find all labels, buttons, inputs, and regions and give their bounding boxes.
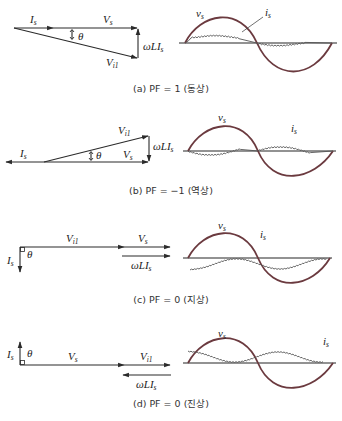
waveform-d: vs is (183, 327, 336, 388)
vs-wave-label: vs (218, 219, 226, 233)
vi1-label: Vi1 (66, 232, 79, 246)
vi1-phasor-arrow (14, 28, 137, 58)
wlis-label: ωLIs (131, 259, 152, 273)
right-angle-mark (21, 361, 25, 365)
caption-a: (a) PF = 1 (동상) (133, 83, 209, 94)
theta-label: θ (27, 248, 33, 260)
is-wave-label: is (323, 335, 329, 349)
caption-c: (c) PF = 0 (지상) (133, 294, 208, 305)
waveform-b: vs is (183, 111, 336, 176)
vs-wave-label: vs (218, 327, 226, 341)
panel-a: Is Vs θ ωLIs Vi1 vs is (a) PF = 1 (동상) (14, 6, 337, 94)
wlis-label: ωLIs (153, 140, 174, 154)
caption-d: (d) PF = 0 (진상) (133, 398, 209, 409)
phasor-diagram-a: Is Vs θ ωLIs Vi1 (14, 13, 164, 70)
phasor-diagram-c: Vi1 Vs ωLIs Is θ (6, 232, 170, 273)
is-waveform (185, 35, 332, 46)
panel-c: Vi1 Vs ωLIs Is θ vs is (c) PF = 0 (지상) (6, 219, 332, 305)
wlis-label: ωLIs (143, 40, 164, 54)
phasor-diagram-d: Is θ Vs Vi1 ωLIs (6, 342, 171, 392)
is-label: Is (19, 147, 27, 161)
waveform-c: vs is (183, 219, 332, 283)
is-label: Is (29, 13, 37, 27)
is-wave-label: is (291, 122, 297, 136)
vi1-label: Vi1 (140, 350, 153, 364)
vi1-label: Vi1 (106, 56, 119, 70)
vi1-label: Vi1 (118, 124, 131, 138)
vs-wave-label: vs (218, 111, 226, 125)
phasor-diagram-b: Is Vs θ ωLIs Vi1 (6, 124, 174, 162)
caption-b: (b) PF = −1 (역상) (129, 185, 213, 196)
vs-label: Vs (68, 350, 78, 364)
is-label: Is (6, 348, 14, 362)
vs-wave-label: vs (196, 7, 204, 21)
vs-label: Vs (123, 148, 133, 162)
vs-label: Vs (103, 13, 113, 27)
vs-label: Vs (138, 232, 148, 246)
panel-d: Is θ Vs Vi1 ωLIs vs is (d) PF = 0 (진상) (6, 327, 336, 409)
waveform-a: vs is (179, 6, 337, 72)
is-label: Is (6, 254, 14, 268)
is-leader-line (242, 17, 263, 32)
right-angle-mark (21, 248, 25, 252)
theta-label: θ (78, 30, 84, 42)
is-wave-label: is (260, 228, 266, 242)
panel-b: Is Vs θ ωLIs Vi1 vs is (b) PF = −1 (역상) (6, 111, 336, 196)
pf-phasor-figure: Is Vs θ ωLIs Vi1 vs is (a) PF = 1 (동상) I… (0, 0, 342, 421)
theta-label: θ (96, 149, 102, 161)
theta-label: θ (27, 347, 33, 359)
wlis-label: ωLIs (136, 378, 157, 392)
is-wave-label: is (265, 6, 271, 20)
